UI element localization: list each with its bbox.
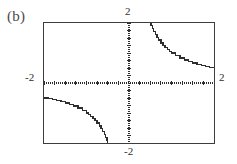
plot-svg <box>44 23 214 143</box>
y-axis-max-label: 2 <box>125 5 131 17</box>
x-axis-max-label: 2 <box>219 71 225 83</box>
axes-group <box>44 23 214 143</box>
figure-container: (b) 2 -2 -2 2 <box>0 0 237 164</box>
figure-part-label: (b) <box>7 8 25 25</box>
curve-path <box>44 98 108 143</box>
x-axis-min-label: -2 <box>25 71 34 83</box>
y-axis-min-label: -2 <box>124 145 133 157</box>
plot-area <box>44 23 214 143</box>
curve-path <box>150 23 214 68</box>
plot-frame <box>43 22 215 144</box>
